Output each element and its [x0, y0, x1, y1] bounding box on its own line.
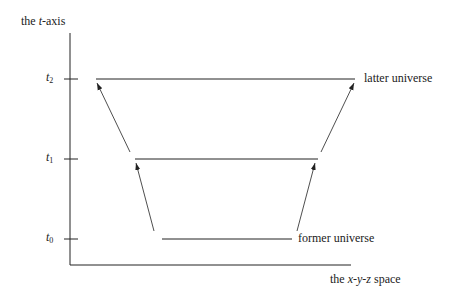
space-label-prefix: the: [330, 272, 348, 286]
tick-sub: 0: [49, 236, 53, 245]
arrow-left-upper: [97, 83, 130, 152]
space-label-suffix: space: [371, 272, 401, 286]
t-axis-label-prefix: the: [21, 14, 39, 28]
diagram-canvas: [0, 0, 461, 298]
t-axis-label: the t-axis: [21, 14, 65, 29]
tick-sub: 1: [49, 156, 53, 165]
space-axis-label: the x-y-z space: [330, 272, 401, 287]
latter-universe-label: latter universe: [364, 71, 432, 86]
tick-label-t0: t0: [46, 230, 53, 245]
tick-sub: 2: [49, 76, 53, 85]
space-label-x: x: [348, 272, 353, 286]
tick-label-t2: t2: [46, 70, 53, 85]
arrow-right-upper: [321, 83, 354, 152]
arrow-left-lower: [136, 163, 154, 231]
space-label-y: y: [357, 272, 362, 286]
tick-label-t1: t1: [46, 150, 53, 165]
arrow-right-lower: [297, 163, 315, 231]
t-axis-label-suffix: -axis: [42, 14, 65, 28]
former-universe-label: former universe: [298, 231, 374, 246]
